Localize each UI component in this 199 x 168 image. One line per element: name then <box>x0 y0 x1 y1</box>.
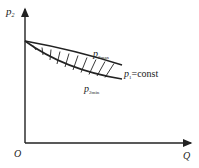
x-axis-label: Q <box>183 150 191 161</box>
pressure-flow-diagram: p2 p2max p1=const p2min O Q <box>0 0 199 168</box>
condition-label: p1=const <box>123 68 158 80</box>
curve-p2max <box>25 41 122 65</box>
y-axis-label: p2 <box>5 5 15 18</box>
hatch-lines <box>33 46 114 78</box>
p2max-label: p2max <box>92 48 110 60</box>
p2min-label: p2min <box>83 83 100 95</box>
origin-label: O <box>14 148 21 159</box>
